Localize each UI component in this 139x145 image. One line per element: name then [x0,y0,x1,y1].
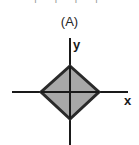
x-axis-label: x [124,94,131,107]
figure-container: |·| |·| (A) y x [0,0,139,145]
coordinate-plane-diagram [0,0,139,145]
y-axis-label: y [73,38,80,51]
